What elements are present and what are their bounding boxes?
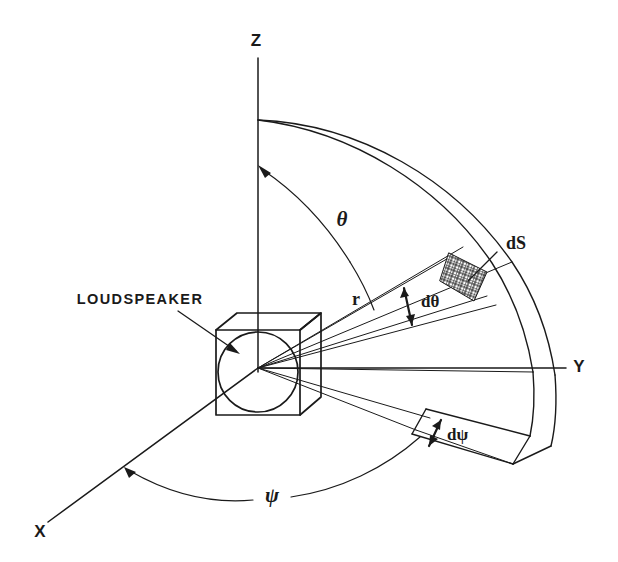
dpsi-label: dψ: [447, 425, 468, 444]
dtheta-label: dθ: [421, 292, 439, 311]
enclosure-right-face: [300, 313, 321, 415]
axis-labels: Z Y X: [34, 31, 585, 541]
shell-inner-arc-lower: [530, 372, 534, 436]
figure-container: θ r dθ dψ dS ψ: [0, 0, 618, 562]
dS-label: dS: [506, 233, 526, 253]
psi-arrowhead: [124, 467, 136, 478]
psi-arc-right: [291, 437, 420, 497]
shell-outer-arc-lower: [551, 375, 556, 446]
psi-angle-annotation: ψ: [124, 437, 420, 507]
theta-arrowhead: [258, 165, 271, 178]
z-axis-label: Z: [251, 31, 261, 50]
loudspeaker-spherical-coordinates-diagram: θ r dθ dψ dS ψ: [0, 0, 618, 562]
shell-bottom-top-edge: [426, 409, 530, 436]
dpsi-annotation: dψ: [429, 420, 468, 446]
shell-bottom-inner-edge: [412, 409, 426, 434]
x-axis-label: X: [34, 522, 46, 541]
y-axis-label: Y: [573, 357, 585, 376]
psi-label: ψ: [265, 483, 280, 507]
loudspeaker-leader-line: [178, 311, 236, 351]
enclosure-top-face: [216, 313, 321, 330]
theta-label: θ: [337, 207, 348, 231]
ray-psi-lower: [258, 368, 430, 418]
r-annotation: r: [352, 289, 360, 309]
r-label: r: [352, 289, 360, 309]
ray-psi-lower-outer: [258, 368, 416, 430]
x-axis: [48, 368, 258, 522]
psi-arc-left: [130, 471, 253, 501]
ray-r-upper-inner: [258, 256, 452, 368]
dtheta-arrowhead-top: [400, 288, 409, 298]
loudspeaker-label: LOUDSPEAKER: [77, 291, 204, 307]
ray-r-lower: [258, 305, 496, 368]
